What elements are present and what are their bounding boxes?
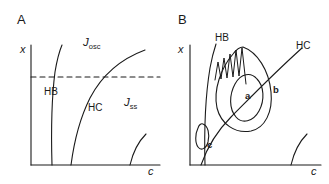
panel-b-label-hc: HC (296, 40, 310, 51)
panel-a-plot (0, 0, 165, 184)
panel-a-curve-saddle-node (130, 134, 146, 165)
panel-a-curve-hb (52, 45, 62, 165)
panel-a-region-j-ss: Jss (124, 96, 137, 111)
panel-a-label-hb: HB (44, 86, 58, 97)
panel-a: A x c HB HC Josc Jss (0, 0, 165, 184)
panel-b-label-a: a (245, 90, 250, 101)
panel-b-label-c: c (207, 139, 212, 150)
panel-b-curve-saddle-node (291, 134, 307, 165)
panel-b-label-b: b (273, 84, 279, 95)
figure-canvas: A x c HB HC Josc Jss B (0, 0, 329, 184)
panel-a-region-j-osc-sub: osc (89, 42, 101, 51)
panel-b-label-hb: HB (215, 32, 229, 43)
panel-b: B x c (165, 0, 329, 184)
panel-a-label-hc: HC (88, 102, 102, 113)
panel-a-region-j-osc: Josc (83, 36, 100, 51)
panel-a-region-j-ss-sub: ss (130, 102, 138, 111)
